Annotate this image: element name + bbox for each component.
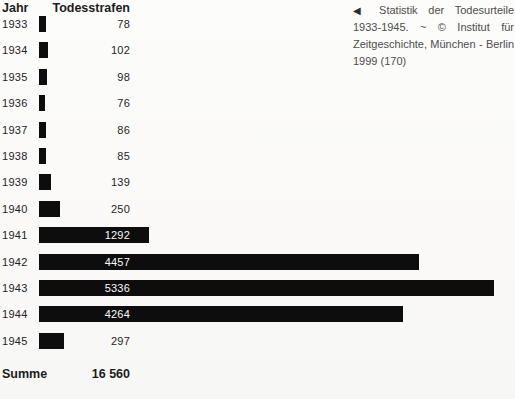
value-bar [39, 69, 47, 85]
year-label: 1934 [2, 42, 34, 58]
bar-row-1938: 193885 [0, 148, 515, 164]
bar-row-1936: 193676 [0, 95, 515, 111]
value-label: 98 [70, 69, 130, 85]
scanned-book-figure: Jahr Todesstrafen 1933781934102193598193… [0, 0, 515, 399]
value-bar [39, 148, 46, 164]
value-bar [39, 122, 46, 138]
column-header-todesstrafen: Todesstrafen [40, 1, 130, 15]
value-label: 1292 [70, 227, 130, 243]
value-label: 250 [70, 201, 130, 217]
value-label: 4457 [70, 254, 130, 270]
bar-row-1942: 19424457 [0, 254, 515, 270]
year-label: 1935 [2, 69, 34, 85]
year-label: 1940 [2, 201, 34, 217]
sum-label: Summe [2, 367, 47, 381]
value-label: 4264 [70, 306, 130, 322]
year-label: 1943 [2, 280, 34, 296]
year-label: 1945 [2, 333, 34, 349]
value-bar [39, 174, 51, 190]
year-label: 1942 [2, 254, 34, 270]
value-label: 297 [70, 333, 130, 349]
year-label: 1941 [2, 227, 34, 243]
caption-line: Zeitgeschichte, München - Berlin [353, 36, 514, 53]
value-bar [39, 42, 48, 58]
value-label: 78 [70, 16, 130, 32]
bar-row-1937: 193786 [0, 122, 515, 138]
value-label: 86 [70, 122, 130, 138]
value-label: 102 [70, 42, 130, 58]
bar-row-1939: 1939139 [0, 174, 515, 190]
year-label: 1938 [2, 148, 34, 164]
sum-total-value: 16 560 [55, 367, 130, 381]
value-bar [39, 201, 60, 217]
caption-line-with-marker: ◀ Statistik der Todesurteile [353, 2, 514, 19]
caption-line: 1933-1945. ~ © Institut für [353, 19, 514, 36]
value-label: 5336 [70, 280, 130, 296]
bar-row-1941: 19411292 [0, 227, 515, 243]
caption-line: 1999 (170) [353, 53, 514, 70]
column-header-jahr: Jahr [2, 1, 28, 15]
year-label: 1937 [2, 122, 34, 138]
bar-row-1943: 19435336 [0, 280, 515, 296]
bar-row-1940: 1940250 [0, 201, 515, 217]
year-label: 1939 [2, 174, 34, 190]
bar-row-1935: 193598 [0, 69, 515, 85]
bar-row-1944: 19444264 [0, 306, 515, 322]
value-bar [39, 16, 46, 32]
value-label: 76 [70, 95, 130, 111]
value-label: 139 [70, 174, 130, 190]
value-bar [39, 333, 64, 349]
left-triangle-icon: ◀ [353, 5, 379, 16]
value-label: 85 [70, 148, 130, 164]
year-label: 1936 [2, 95, 34, 111]
bar-row-1945: 1945297 [0, 333, 515, 349]
year-label: 1933 [2, 16, 34, 32]
year-label: 1944 [2, 306, 34, 322]
figure-caption: ◀ Statistik der Todesurteile1933-1945. ~… [353, 2, 514, 70]
value-bar [39, 95, 45, 111]
